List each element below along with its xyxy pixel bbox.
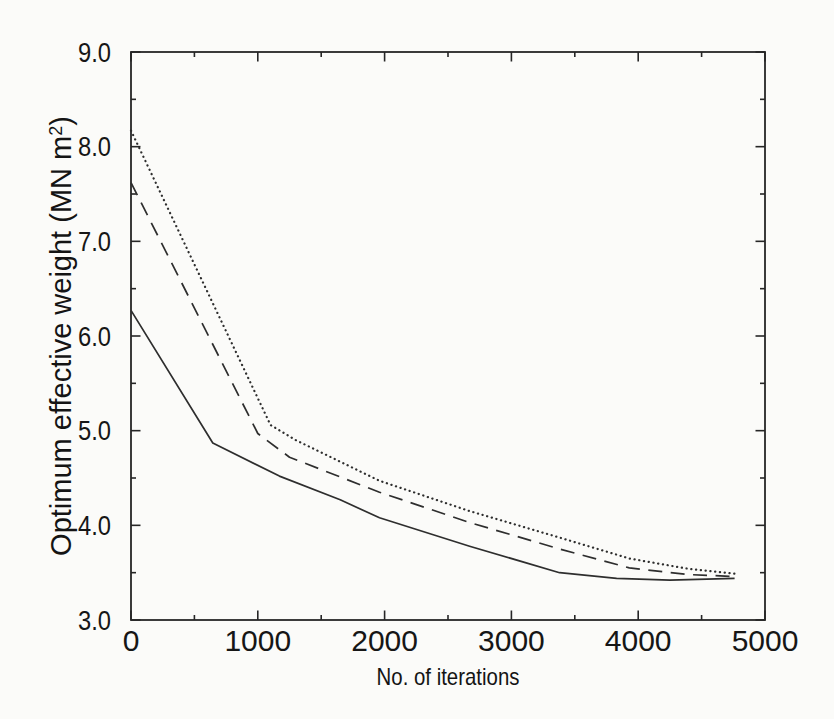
y-tick-label: 9.0 <box>78 37 111 68</box>
x-tick-label: 3000 <box>478 624 545 657</box>
curve-solid <box>131 310 735 580</box>
y-tick-label: 4.0 <box>78 510 111 541</box>
y-tick-label: 8.0 <box>78 131 111 162</box>
plot-frame <box>131 52 765 620</box>
y-tick-label: 3.0 <box>78 605 111 636</box>
y-axis-title-text: Optimum effective weight (MN m <box>45 136 77 556</box>
chart-canvas: 0100020003000400050003.04.05.06.07.08.09… <box>0 0 834 719</box>
y-axis-title-superscript: 2 <box>46 126 66 136</box>
x-tick-label: 0 <box>123 624 140 657</box>
curve-dotted <box>131 131 735 574</box>
y-tick-label: 5.0 <box>78 415 111 446</box>
y-axis-title: Optimum effective weight (MN m2) <box>45 116 78 556</box>
curve-dashed <box>131 183 735 577</box>
y-tick-label: 7.0 <box>78 226 111 257</box>
x-tick-label: 1000 <box>224 624 291 657</box>
x-tick-label: 4000 <box>605 624 672 657</box>
figure: 0100020003000400050003.04.05.06.07.08.09… <box>0 0 834 719</box>
x-axis-title: No. of iterations <box>377 663 520 691</box>
y-tick-label: 6.0 <box>78 321 111 352</box>
x-tick-label: 2000 <box>351 624 418 657</box>
y-axis-title-close: ) <box>45 116 77 126</box>
x-tick-label: 5000 <box>732 624 799 657</box>
